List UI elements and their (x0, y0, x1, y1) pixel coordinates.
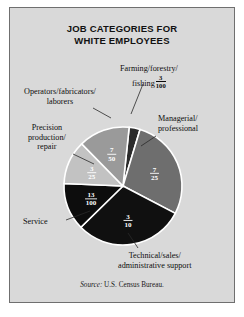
slice-fraction-farming: 3100 (156, 74, 166, 89)
leader-line-operators (93, 108, 111, 118)
pie-wedge-group (64, 127, 182, 245)
slice-label-farming-line-2: fishing (132, 79, 155, 88)
slice-label-technical-line-2: administrative support (118, 261, 191, 270)
slice-label-operators-line-1: Operators/fabricators/ (24, 87, 96, 96)
slice-label-precision-line-3: repair (37, 142, 56, 151)
chart-figure: JOB CATEGORIES FOR WHITE EMPLOYEES 72531… (9, 7, 235, 303)
slice-fraction-numerator: 7 (110, 146, 114, 154)
slice-fraction-denominator: 25 (88, 173, 96, 181)
slice-label-operators-line-2: laborers (47, 97, 73, 106)
slice-label-service: Service (23, 217, 48, 227)
chart-source-prefix: Source: (80, 281, 102, 289)
slice-fraction-denominator: 10 (124, 221, 132, 229)
slice-label-operators: Operators/fabricators/ laborers (24, 87, 96, 106)
slice-fraction-numerator: 3 (90, 165, 94, 173)
chart-source: Source: U.S. Census Bureau. (10, 281, 234, 289)
slice-fraction-denominator: 100 (86, 199, 97, 207)
slice-label-precision-line-2: production/ (28, 133, 66, 142)
slice-fraction-farming-denominator: 100 (156, 81, 166, 89)
chart-source-text: U.S. Census Bureau. (102, 281, 164, 289)
slice-label-managerial: Managerial/ professional (158, 114, 198, 133)
slice-fraction-numerator: 13 (88, 191, 96, 199)
slice-label-farming-line-1: Farming/forestry/ (120, 64, 178, 73)
slice-label-service-text: Service (23, 217, 48, 226)
slice-label-technical-line-1: Technical/sales/ (129, 251, 181, 260)
slice-fraction-denominator: 25 (151, 174, 159, 182)
slice-label-technical: Technical/sales/ administrative support (118, 251, 191, 270)
slice-fraction-numerator: 3 (126, 213, 130, 221)
slice-label-managerial-line-1: Managerial/ (158, 114, 198, 123)
slice-fraction-numerator: 7 (153, 166, 157, 174)
slice-fraction-farming-numerator: 3 (156, 74, 166, 81)
slice-label-precision-line-1: Precision (32, 123, 62, 132)
slice-label-farming: Farming/forestry/ fishing3100 (120, 64, 178, 89)
slice-label-managerial-line-2: professional (158, 124, 198, 133)
slice-fraction-denominator: 50 (108, 155, 116, 163)
slice-label-precision: Precision production/ repair (28, 123, 66, 152)
